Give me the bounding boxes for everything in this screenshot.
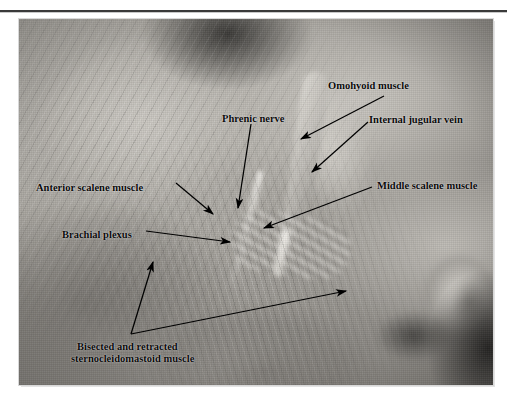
leader-middle-scalene xyxy=(264,187,372,228)
page-header-rule-shade xyxy=(0,12,507,13)
label-middle-scalene-muscle: Middle scalene muscle xyxy=(377,180,477,192)
page-canvas: Omohyoid muscle Internal jugular vein Ph… xyxy=(0,0,507,403)
leader-anterior-scalene xyxy=(176,183,213,214)
label-sternocleidomastoid-line2: sternocleidomastoid muscle xyxy=(71,353,194,365)
dissection-photograph: Omohyoid muscle Internal jugular vein Ph… xyxy=(19,19,493,385)
leader-brachial-plexus xyxy=(146,231,230,242)
leader-phrenic xyxy=(238,124,251,208)
leader-scm-lower xyxy=(131,291,346,334)
label-anterior-scalene-muscle: Anterior scalene muscle xyxy=(36,182,143,194)
label-phrenic-nerve: Phrenic nerve xyxy=(222,113,285,125)
label-brachial-plexus: Brachial plexus xyxy=(62,229,132,241)
label-omohyoid-muscle: Omohyoid muscle xyxy=(328,80,409,92)
label-sternocleidomastoid-line1: Bisected and retracted xyxy=(77,341,178,353)
label-internal-jugular-vein: Internal jugular vein xyxy=(369,114,463,126)
annotation-overlay xyxy=(19,19,493,385)
leader-scm-upper xyxy=(131,262,153,334)
